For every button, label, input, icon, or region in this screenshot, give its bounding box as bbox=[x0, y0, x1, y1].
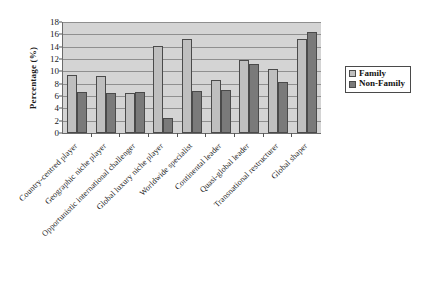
legend-item: Family bbox=[349, 69, 405, 78]
y-axis-tick-labels: 024681012141618 bbox=[40, 16, 62, 134]
y-axis-tick-label: 18 bbox=[41, 18, 59, 27]
bar-non-family bbox=[307, 32, 317, 133]
y-axis-tick-label: 4 bbox=[41, 104, 59, 113]
y-axis-tick-label: 2 bbox=[41, 116, 59, 125]
bar-group bbox=[63, 22, 92, 133]
bar-group bbox=[120, 22, 149, 133]
bar-non-family bbox=[192, 91, 202, 133]
x-axis-category-label: Global shaper bbox=[161, 141, 309, 282]
x-axis-tick-mark bbox=[234, 133, 235, 137]
x-axis-category-label: Worldwide specialist bbox=[46, 141, 194, 282]
y-axis-tick-label: 12 bbox=[41, 55, 59, 64]
x-axis-tick-mark bbox=[263, 133, 264, 137]
bar-groups bbox=[63, 22, 321, 133]
y-axis-tick-label: 14 bbox=[41, 42, 59, 51]
bar-non-family bbox=[163, 118, 173, 133]
x-axis-category-label: Transnational restructurer bbox=[132, 141, 280, 282]
bar-non-family bbox=[77, 92, 87, 133]
x-axis-category-label: Global luxury niche player bbox=[18, 141, 166, 282]
legend-swatch-icon bbox=[349, 70, 356, 77]
x-axis-tick-marks bbox=[62, 133, 320, 137]
y-axis-tick-label: 16 bbox=[41, 30, 59, 39]
bar-group bbox=[149, 22, 178, 133]
bar-family bbox=[182, 39, 192, 133]
x-axis-tick-mark bbox=[91, 133, 92, 137]
x-axis-category-label: Country-centred player bbox=[0, 141, 80, 282]
x-axis-tick-mark bbox=[148, 133, 149, 137]
bar-non-family bbox=[221, 90, 231, 133]
chart-legend: FamilyNon-Family bbox=[345, 66, 411, 93]
bar-non-family bbox=[135, 92, 145, 133]
bar-family bbox=[67, 75, 77, 133]
y-axis-tick-label: 6 bbox=[41, 92, 59, 101]
bar-non-family bbox=[249, 64, 259, 133]
y-axis-tick-label: 10 bbox=[41, 67, 59, 76]
bar-group bbox=[292, 22, 321, 133]
x-axis-category-label: Geographic niche player bbox=[0, 141, 108, 282]
legend-label: Non-Family bbox=[359, 79, 405, 88]
bar-group bbox=[235, 22, 264, 133]
x-axis-tick-mark bbox=[291, 133, 292, 137]
bar-family bbox=[297, 39, 307, 133]
x-axis-tick-mark bbox=[177, 133, 178, 137]
bar-family bbox=[211, 80, 221, 133]
plot-area bbox=[62, 22, 321, 134]
legend-swatch-icon bbox=[349, 81, 356, 88]
x-axis-category-label: Continental leader bbox=[75, 141, 223, 282]
bar-family bbox=[153, 46, 163, 133]
bar-group bbox=[92, 22, 121, 133]
x-axis-tick-mark bbox=[119, 133, 120, 137]
y-axis-tick-label: 8 bbox=[41, 79, 59, 88]
bar-family bbox=[268, 69, 278, 133]
x-axis-category-label: Opportunistic international challenger bbox=[0, 141, 137, 282]
x-axis-category-label: Quasi-global leader bbox=[104, 141, 252, 282]
bar-group bbox=[178, 22, 207, 133]
x-axis-tick-mark bbox=[205, 133, 206, 137]
legend-item: Non-Family bbox=[349, 79, 405, 88]
bar-family bbox=[125, 93, 135, 133]
bar-non-family bbox=[106, 93, 116, 133]
bar-family bbox=[239, 60, 249, 133]
y-axis-tick-label: 0 bbox=[41, 129, 59, 138]
bar-family bbox=[96, 76, 106, 133]
bar-chart-figure: Percentage (%) 024681012141618 Country-c… bbox=[0, 0, 432, 282]
bar-group bbox=[206, 22, 235, 133]
legend-label: Family bbox=[359, 69, 386, 78]
bar-group bbox=[264, 22, 293, 133]
bar-non-family bbox=[278, 82, 288, 133]
